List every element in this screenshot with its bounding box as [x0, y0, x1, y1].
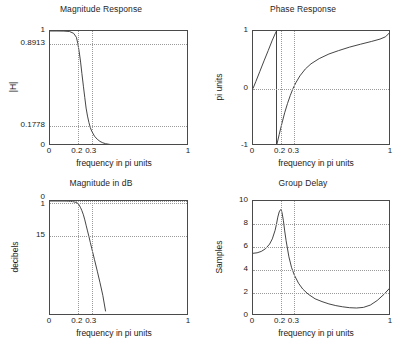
curve-magnitude-response	[50, 31, 188, 145]
subplot-title-magnitude-response: Magnitude Response	[0, 4, 202, 14]
plot-area-group-delay	[252, 200, 390, 315]
gridline-y-8	[253, 224, 389, 225]
ytick-label-mag-0.1778: 0.1778	[0, 121, 45, 129]
figure-canvas: Magnitude Response 1 0.8913 0.1778 0 0 0…	[0, 0, 404, 349]
ytick-label-mag-1: 1	[0, 26, 45, 34]
subplot-title-group-delay: Group Delay	[202, 178, 404, 188]
xtick-label-gd-0.2: 0.2	[274, 317, 285, 325]
plot-area-magnitude-in-db	[49, 200, 188, 315]
gridline-y-2	[253, 293, 389, 294]
xtick-label-db-0.3: 0.3	[85, 317, 96, 325]
xtick-label-gd-1: 1	[388, 317, 392, 325]
yaxis-label-group-delay: Samples	[214, 232, 224, 282]
plot-area-phase-response	[252, 30, 390, 145]
xtick-label-db-0: 0	[47, 317, 51, 325]
ytick-label-gd-8: 8	[202, 219, 248, 227]
subplot-group-delay: Group Delay 10 8 6 4 2 0 0 0.2 0.3 1 fre…	[202, 178, 404, 349]
ytick-label-mag-0: 0	[0, 141, 45, 149]
plot-area-magnitude-response	[49, 30, 188, 145]
gridline-x-0.2	[78, 201, 79, 314]
ytick-label-db-1: 1	[0, 200, 45, 208]
ytick-label-gd-10: 10	[202, 196, 248, 204]
xtick-label-gd-0.3: 0.3	[288, 317, 299, 325]
gridline-y-15	[50, 236, 187, 237]
ytick-label-phase-minus1: -1	[202, 141, 248, 149]
ytick-label-mag-0.8913: 0.8913	[0, 39, 45, 47]
gridline-x-0.3	[294, 31, 295, 144]
ytick-label-phase-1: 1	[202, 26, 248, 34]
ytick-label-db-15: 15	[0, 231, 45, 239]
xaxis-label-magnitude-in-db: frequency in pi units	[30, 328, 198, 338]
ytick-label-phase-0: 0	[202, 84, 248, 92]
xtick-label-phase-0.3: 0.3	[288, 147, 299, 155]
xtick-label-mag-0.2: 0.2	[71, 147, 82, 155]
xtick-label-mag-0: 0	[47, 147, 51, 155]
gridline-x-0.3	[92, 201, 93, 314]
xtick-label-gd-0: 0	[250, 317, 254, 325]
gridline-x-0.2	[78, 31, 79, 144]
gridline-x-0.2	[281, 31, 282, 144]
gridline-y-0	[50, 201, 187, 202]
ytick-label-gd-2: 2	[202, 288, 248, 296]
subplot-phase-response: Phase Response 1 0 -1 0 0.2 0.3 1 freque…	[202, 4, 404, 175]
curve-magnitude-in-db	[50, 201, 188, 315]
xtick-label-phase-1: 1	[388, 147, 392, 155]
gridline-y-4	[253, 270, 389, 271]
gridline-y-0.1778	[50, 126, 187, 127]
ytick-label-gd-6: 6	[202, 242, 248, 250]
xtick-label-mag-0.3: 0.3	[85, 147, 96, 155]
xtick-label-mag-1: 1	[186, 147, 190, 155]
gridline-y-0	[253, 89, 389, 90]
xtick-label-phase-0.2: 0.2	[274, 147, 285, 155]
xaxis-label-phase-response: frequency in pi units	[232, 158, 400, 168]
gridline-y-6	[253, 247, 389, 248]
ytick-label-gd-4: 4	[202, 265, 248, 273]
xtick-label-db-1: 1	[186, 317, 190, 325]
gridline-y-0.8913	[50, 44, 187, 45]
yaxis-label-phase-response: pi units	[214, 70, 224, 104]
subplot-magnitude-in-db: Magnitude in dB 0 1 15 0 0.2 0.3 1 frequ…	[0, 178, 202, 349]
xaxis-label-group-delay: frequency in pi units	[232, 328, 400, 338]
subplot-title-phase-response: Phase Response	[202, 4, 404, 14]
xtick-label-phase-0: 0	[250, 147, 254, 155]
subplot-title-magnitude-in-db: Magnitude in dB	[0, 178, 202, 188]
gridline-x-0.3	[92, 31, 93, 144]
gridline-x-0.3	[294, 201, 295, 314]
yaxis-label-magnitude-response: |H|	[8, 72, 18, 102]
ytick-label-gd-0: 0	[202, 311, 248, 319]
gridline-x-0.2	[281, 201, 282, 314]
yaxis-label-magnitude-in-db: decibels	[10, 232, 20, 282]
gridline-y-1	[50, 203, 187, 204]
xaxis-label-magnitude-response: frequency in pi units	[30, 158, 198, 168]
xtick-label-db-0.2: 0.2	[71, 317, 82, 325]
subplot-magnitude-response: Magnitude Response 1 0.8913 0.1778 0 0 0…	[0, 4, 202, 175]
curve-group-delay	[253, 201, 390, 315]
